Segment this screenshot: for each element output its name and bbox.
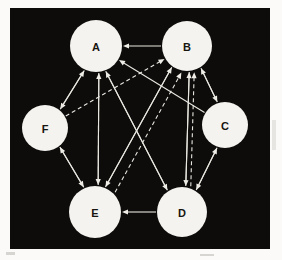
scan-speck: [6, 252, 15, 255]
node-b[interactable]: B: [162, 21, 212, 71]
node-label-d: D: [178, 207, 186, 219]
edge-c-to-b: [203, 73, 217, 102]
scan-speck: [200, 254, 214, 256]
arrowhead-d-to-b: [186, 72, 191, 78]
edge-a-to-d: [106, 71, 165, 185]
edge-d-to-b: [186, 77, 189, 186]
node-d[interactable]: D: [157, 187, 207, 237]
directed-graph: ABCDEF: [10, 8, 270, 249]
scanned-page: ABCDEF: [0, 0, 282, 260]
node-a[interactable]: A: [70, 20, 122, 72]
node-label-e: E: [91, 207, 98, 219]
arrowhead-e-to-b: [176, 73, 181, 80]
node-e[interactable]: E: [69, 186, 121, 238]
nodes-layer: ABCDEF: [22, 20, 248, 238]
edge-b-to-e: [108, 67, 172, 182]
arrowhead-e-to-a: [96, 73, 101, 79]
scan-speck: [272, 120, 276, 150]
edge-d-to-c: [196, 152, 215, 190]
page-margin-left: [0, 0, 10, 260]
arrowhead-b-to-a: [123, 43, 129, 48]
page-margin-top: [0, 0, 282, 8]
edge-e-to-f: [62, 151, 83, 187]
node-label-a: A: [92, 41, 100, 53]
edge-f-to-b: [66, 62, 160, 116]
graph-panel: ABCDEF: [10, 8, 270, 249]
arrowhead-d-to-e: [122, 209, 128, 214]
node-label-b: B: [183, 41, 191, 53]
arrowhead-f-to-a: [79, 71, 84, 77]
page-margin-bottom: [0, 249, 282, 260]
edge-e-to-b: [115, 77, 179, 192]
node-label-c: C: [221, 120, 229, 132]
node-c[interactable]: C: [202, 102, 248, 148]
edge-d-to-b: [191, 77, 194, 186]
arrowhead-c-to-a: [119, 60, 125, 65]
arrowhead-d-to-b: [191, 72, 196, 78]
node-f[interactable]: F: [22, 105, 68, 151]
node-label-f: F: [42, 123, 49, 135]
edge-e-to-a: [98, 78, 99, 185]
edge-f-to-a: [60, 75, 81, 109]
